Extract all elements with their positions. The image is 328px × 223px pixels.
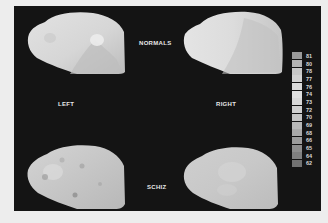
legend-value: 76 — [306, 84, 312, 90]
legend-value: 70 — [306, 114, 312, 120]
legend-value: 72 — [306, 107, 312, 113]
legend-swatch — [292, 68, 302, 75]
legend-value: 66 — [306, 137, 312, 143]
legend-value: 78 — [306, 68, 312, 74]
legend-row: 69 — [292, 121, 312, 129]
legend-swatch — [292, 114, 302, 121]
legend-row: 62 — [292, 160, 312, 168]
group-label-schiz: SCHIZ — [147, 184, 167, 190]
legend-swatch — [292, 91, 302, 98]
brain-map-normals-right — [182, 10, 284, 76]
legend-value: 80 — [306, 61, 312, 67]
legend-row: 81 — [292, 52, 312, 60]
legend-row: 80 — [292, 60, 312, 68]
legend-row: 74 — [292, 90, 312, 98]
brain-map-schiz-right — [182, 146, 280, 210]
legend-row: 68 — [292, 129, 312, 137]
legend-value: 64 — [306, 153, 312, 159]
hemisphere-label-right: RIGHT — [216, 101, 236, 107]
legend-row: 65 — [292, 144, 312, 152]
legend-value: 65 — [306, 145, 312, 151]
legend-swatch — [292, 83, 302, 90]
legend-value: 77 — [306, 76, 312, 82]
legend-value: 68 — [306, 130, 312, 136]
legend-swatch — [292, 60, 302, 67]
legend-row: 72 — [292, 106, 312, 114]
legend-swatch — [292, 52, 302, 59]
color-scale-legend: 818078777674737270696866656462 — [292, 52, 312, 167]
legend-value: 74 — [306, 91, 312, 97]
brain-map-normals-left — [25, 10, 127, 76]
legend-swatch — [292, 152, 302, 159]
legend-swatch — [292, 160, 302, 167]
legend-row: 73 — [292, 98, 312, 106]
legend-swatch — [292, 129, 302, 136]
legend-value: 81 — [306, 53, 312, 59]
legend-value: 73 — [306, 99, 312, 105]
legend-swatch — [292, 106, 302, 113]
legend-swatch — [292, 98, 302, 105]
group-label-normals: NORMALS — [139, 40, 171, 46]
legend-row: 78 — [292, 67, 312, 75]
hemisphere-label-left: LEFT — [58, 101, 74, 107]
legend-row: 70 — [292, 114, 312, 122]
legend-row: 66 — [292, 137, 312, 145]
brain-map-schiz-left — [25, 144, 127, 210]
legend-row: 76 — [292, 83, 312, 91]
legend-swatch — [292, 145, 302, 152]
legend-swatch — [292, 75, 302, 82]
legend-row: 77 — [292, 75, 312, 83]
legend-value: 69 — [306, 122, 312, 128]
legend-row: 64 — [292, 152, 312, 160]
legend-swatch — [292, 122, 302, 129]
figure-panel: NORMALS LEFT RIGHT SCHIZ 818078777674737… — [14, 6, 321, 211]
legend-swatch — [292, 137, 302, 144]
legend-value: 62 — [306, 160, 312, 166]
